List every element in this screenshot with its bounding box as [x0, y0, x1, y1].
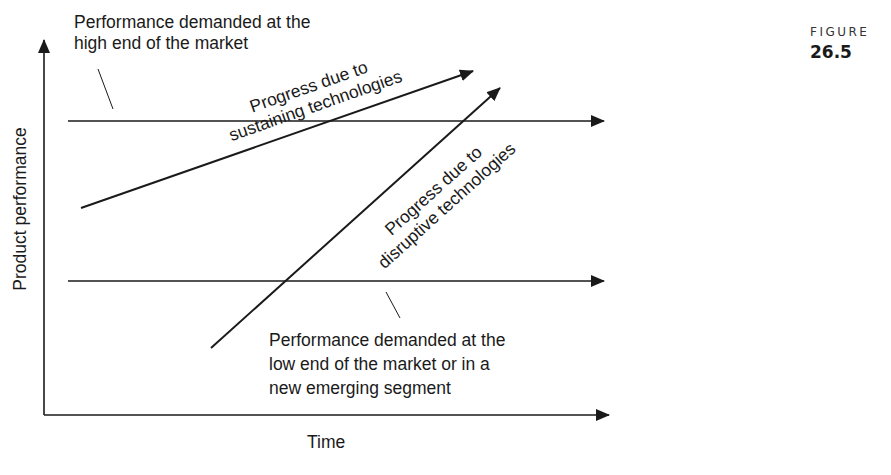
low-end-label-line-3: new emerging segment — [269, 378, 451, 399]
high-end-label-line-2: high end of the market — [74, 33, 248, 54]
high-end-leader-line — [98, 69, 113, 109]
low-end-label-line-1: Performance demanded at the — [269, 330, 505, 351]
high-end-label-line-1: Performance demanded at the — [74, 12, 310, 33]
low-end-leader-line — [386, 292, 400, 318]
low-end-label-line-2: low end of the market or in a — [269, 354, 490, 375]
x-axis-label: Time — [307, 432, 345, 453]
figure-number: 26.5 — [810, 42, 852, 62]
diagram-canvas — [0, 0, 891, 475]
figure-caption-label: FIGURE — [810, 25, 869, 39]
y-axis-label: Product performance — [10, 109, 30, 309]
